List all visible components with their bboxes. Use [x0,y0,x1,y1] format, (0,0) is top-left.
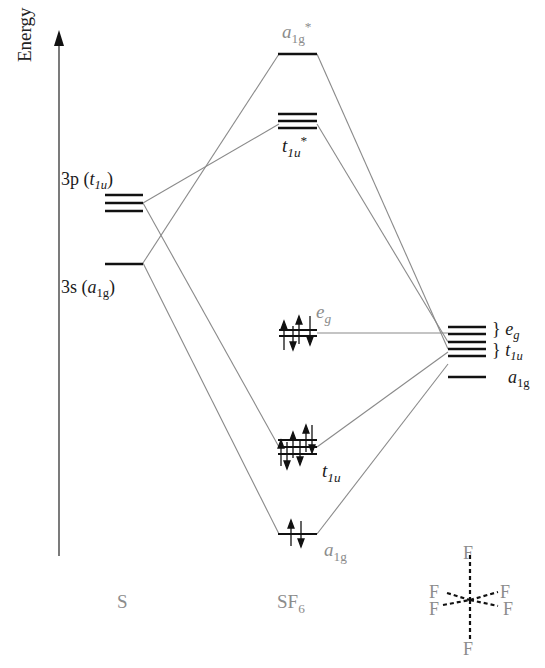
sf6-t1u-star-label: t1u* [282,134,307,159]
f-atom-bottom: F [463,640,473,658]
energy-axis-label: Energy [14,4,40,64]
ligand-a1g-label: a1g [508,368,530,390]
correlation-lines [143,54,448,534]
sf6-a1g-level [278,520,317,547]
electron-arrows-eg [281,316,313,350]
sulfur-3p-levels [105,195,143,211]
sulfur-3p-label: 3p (t1u) [61,170,113,192]
mo-diagram [0,0,545,668]
f-atom-lower-left: F [429,600,439,618]
ligand-t1u-label: } t1u [492,341,523,363]
sf6-t1u-levels [278,425,317,469]
sf6-eg-label: eg [316,302,331,325]
sf6-a1g-label: a1g [324,540,347,563]
ligand-eg-label: } eg [492,320,519,342]
octahedral-f6-bonds [443,555,498,640]
sf6-eg-levels [279,316,317,350]
f-atom-lower-right: F [503,600,513,618]
f-atom-top: F [463,544,473,562]
sulfur-3s-label: 3s (a1g) [61,278,115,300]
ligand-t1u-levels [448,342,486,356]
ligand-eg-levels [448,327,486,334]
column-label-sf6: SF6 [277,592,305,615]
sf6-t1u-star-levels [278,114,317,128]
sf6-a1g-star-label: a1g* [282,20,311,45]
sf6-t1u-label: t1u [322,461,341,484]
column-label-s: S [117,592,128,611]
